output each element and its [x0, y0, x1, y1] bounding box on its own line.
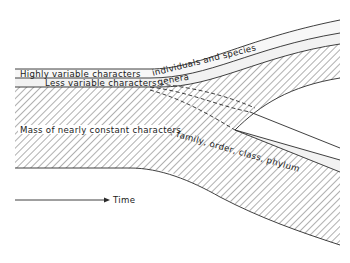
label-time: Time	[112, 195, 135, 205]
time-arrow-head-icon	[104, 198, 110, 203]
label-less-variable: Less variable characters:	[45, 78, 160, 88]
label-mass-constant: Mass of nearly constant characters	[20, 125, 181, 135]
character-variability-diagram: Highly variable characters individuals a…	[0, 0, 350, 263]
